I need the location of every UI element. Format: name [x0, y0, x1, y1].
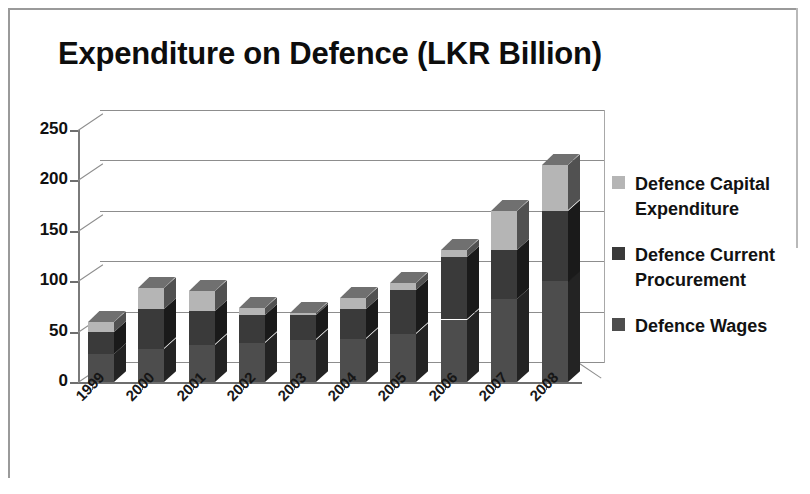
legend-swatch-icon	[612, 176, 625, 189]
bar-segment[interactable]	[390, 283, 416, 290]
bar-segment-front-face	[491, 211, 517, 250]
y-axis-tick-label: 250	[12, 119, 68, 139]
bar-segment[interactable]	[491, 250, 517, 299]
y-axis-tick	[70, 332, 78, 334]
bar-segment-front-face	[441, 250, 467, 257]
y-axis-tick-label: 50	[12, 321, 68, 341]
bar-segment-side-face	[568, 270, 580, 382]
legend-item-label: Defence Current Procurement	[635, 243, 803, 293]
bar-segment[interactable]	[138, 288, 164, 309]
bar-segment-front-face	[290, 315, 316, 339]
bar-segment-front-face	[390, 283, 416, 290]
bar-segment[interactable]	[441, 257, 467, 319]
bar-segment-front-face	[138, 309, 164, 348]
bar-segment[interactable]	[441, 250, 467, 257]
bar-segment-front-face	[290, 313, 316, 315]
y-axis-tick-label: 0	[12, 371, 68, 391]
bar-segment[interactable]	[290, 313, 316, 315]
x-axis-category-label: 2003	[274, 368, 310, 404]
bar-segment[interactable]	[88, 332, 114, 354]
legend-swatch-icon	[612, 318, 625, 331]
gridline-riser	[78, 264, 103, 282]
bar-segment[interactable]	[491, 299, 517, 382]
bar-segment[interactable]	[138, 309, 164, 348]
bar-segment[interactable]	[340, 309, 366, 338]
bar-segment-front-face	[88, 322, 114, 332]
y-axis-tick	[70, 281, 78, 283]
bar-segment-front-face	[239, 315, 265, 342]
y-axis-tick	[70, 231, 78, 233]
bar-segment[interactable]	[390, 290, 416, 333]
bar-segment-side-face	[467, 246, 479, 319]
gridline-riser	[78, 113, 103, 131]
chart-legend: Defence Capital ExpenditureDefence Curre…	[612, 172, 808, 360]
bar-segment-front-face	[88, 332, 114, 354]
bar-segment-front-face	[542, 165, 568, 210]
y-axis-tick	[70, 180, 78, 182]
bar-segment-front-face	[491, 299, 517, 382]
bar-segment[interactable]	[542, 211, 568, 282]
gridline-riser	[78, 214, 103, 232]
bar-segment-side-face	[467, 309, 479, 382]
chart-screenshot: Expenditure on Defence (LKR Billion) 050…	[0, 0, 810, 494]
bar-segment[interactable]	[239, 315, 265, 342]
bar-segment-front-face	[542, 211, 568, 282]
bar-segment-front-face	[189, 311, 215, 344]
bar-segment-front-face	[239, 308, 265, 315]
bar-segment[interactable]	[239, 308, 265, 315]
bar-segment[interactable]	[88, 322, 114, 332]
bar-segment-front-face	[542, 281, 568, 382]
gridline	[100, 160, 604, 161]
bar-segment[interactable]	[491, 211, 517, 250]
y-axis-tick-label: 200	[12, 169, 68, 189]
bar-segment-front-face	[340, 298, 366, 309]
bar-segment-front-face	[138, 288, 164, 309]
y-axis-tick-label: 150	[12, 220, 68, 240]
bar-segment-side-face	[517, 289, 529, 382]
bar-segment-front-face	[491, 250, 517, 299]
bar-segment[interactable]	[290, 315, 316, 339]
gridline-riser	[78, 164, 103, 182]
legend-item[interactable]: Defence Wages	[612, 314, 808, 339]
bar-segment[interactable]	[189, 311, 215, 344]
bar-segment-front-face	[390, 290, 416, 333]
y-axis-tick	[70, 382, 78, 384]
bar-segment[interactable]	[189, 291, 215, 311]
legend-item[interactable]: Defence Current Procurement	[612, 243, 808, 293]
y-axis-tick	[70, 130, 78, 132]
bar-segment-front-face	[340, 309, 366, 338]
bar-segment[interactable]	[542, 165, 568, 210]
legend-swatch-icon	[612, 247, 625, 260]
legend-item[interactable]: Defence Capital Expenditure	[612, 172, 808, 222]
bar-segment-front-face	[189, 291, 215, 311]
x-axis-category-label: 2008	[526, 368, 562, 404]
y-axis-line	[78, 130, 80, 384]
y-axis-tick-label: 100	[12, 270, 68, 290]
back-wall-right-edge	[604, 110, 605, 363]
bar-segment-side-face	[416, 323, 428, 382]
floor-right-edge	[578, 362, 602, 378]
bar-segment-side-face	[568, 200, 580, 281]
bar-segment-front-face	[441, 257, 467, 319]
legend-item-label: Defence Wages	[635, 314, 767, 339]
bar-segment[interactable]	[340, 298, 366, 309]
bar-segment[interactable]	[542, 281, 568, 382]
legend-item-label: Defence Capital Expenditure	[635, 172, 803, 222]
gridline	[100, 110, 604, 111]
